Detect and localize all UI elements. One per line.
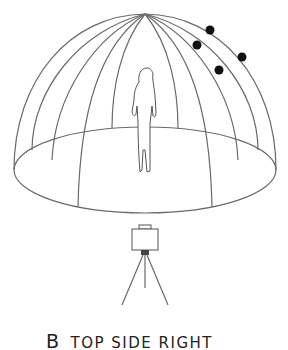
figure-caption: BTOP SIDE RIGHT	[46, 330, 246, 350]
human-figure	[132, 68, 156, 172]
studio-lights	[193, 26, 247, 75]
dome-diagram	[0, 0, 288, 350]
caption-letter: B	[46, 330, 61, 350]
tripod-camera	[122, 225, 168, 305]
caption-label: TOP SIDE RIGHT	[71, 334, 213, 350]
